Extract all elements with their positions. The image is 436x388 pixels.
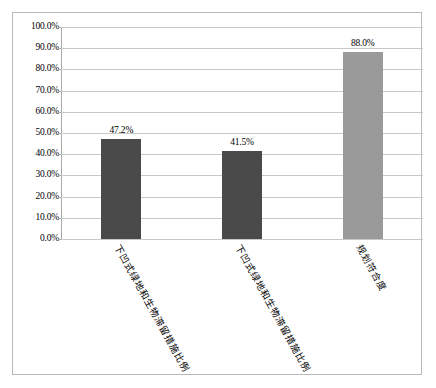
x-axis-category-label: 下凹式绿地和生物滞留措施比例	[233, 243, 312, 374]
y-axis-tick-label: 20.0%	[15, 192, 59, 202]
y-axis-tick-label: 30.0%	[15, 171, 59, 181]
bar-value-label: 41.5%	[230, 137, 254, 147]
y-axis-tick-label: 80.0%	[15, 65, 59, 75]
y-axis-tick-label: 0.0%	[15, 234, 59, 244]
bar-rect	[343, 52, 383, 239]
y-axis-tick-label: 90.0%	[15, 43, 59, 53]
bar: 47.2%	[101, 139, 141, 239]
y-axis-tickmark	[58, 133, 61, 134]
gridline	[61, 239, 423, 240]
y-axis-tickmark	[58, 239, 61, 240]
y-axis-tickmark	[58, 69, 61, 70]
x-axis-category-label: 规划符合度	[354, 243, 388, 293]
bar-value-label: 88.0%	[351, 38, 375, 48]
y-axis-tick-label: 70.0%	[15, 86, 59, 96]
y-axis: 100.0%90.0%80.0%70.0%60.0%50.0%40.0%30.0…	[15, 13, 59, 376]
y-axis-tick-label: 40.0%	[15, 149, 59, 159]
y-axis-tick-label: 100.0%	[15, 22, 59, 32]
y-axis-tick-label: 60.0%	[15, 107, 59, 117]
y-axis-tickmark	[58, 154, 61, 155]
y-axis-tickmark	[58, 91, 61, 92]
x-axis-category-label: 下凹式绿地和生物滞留措施比例	[113, 243, 192, 374]
x-axis-label-slot: 下凹式绿地和生物滞留措施比例	[61, 241, 182, 376]
y-axis-tickmark	[58, 48, 61, 49]
bar: 88.0%	[343, 52, 383, 239]
x-axis-label-slot: 规划符合度	[302, 241, 423, 376]
y-axis-tickmark	[58, 197, 61, 198]
x-axis-category-labels: 下凹式绿地和生物滞留措施比例下凹式绿地和生物滞留措施比例规划符合度	[61, 241, 423, 376]
bar-value-label: 47.2%	[110, 125, 134, 135]
y-axis-tick-label: 10.0%	[15, 213, 59, 223]
bar-rect	[101, 139, 141, 239]
chart-canvas: 100.0%90.0%80.0%70.0%60.0%50.0%40.0%30.0…	[13, 13, 423, 376]
x-axis-label-slot: 下凹式绿地和生物滞留措施比例	[182, 241, 303, 376]
y-axis-tickmark	[58, 112, 61, 113]
gridline	[61, 27, 423, 28]
chart-frame: 100.0%90.0%80.0%70.0%60.0%50.0%40.0%30.0…	[12, 12, 422, 375]
y-axis-tickmark	[58, 175, 61, 176]
y-axis-tick-label: 50.0%	[15, 128, 59, 138]
bar-rect	[222, 151, 262, 239]
y-axis-tickmark	[58, 27, 61, 28]
plot-area: 47.2%41.5%88.0%	[61, 27, 423, 239]
y-axis-tickmark	[58, 218, 61, 219]
bar: 41.5%	[222, 151, 262, 239]
